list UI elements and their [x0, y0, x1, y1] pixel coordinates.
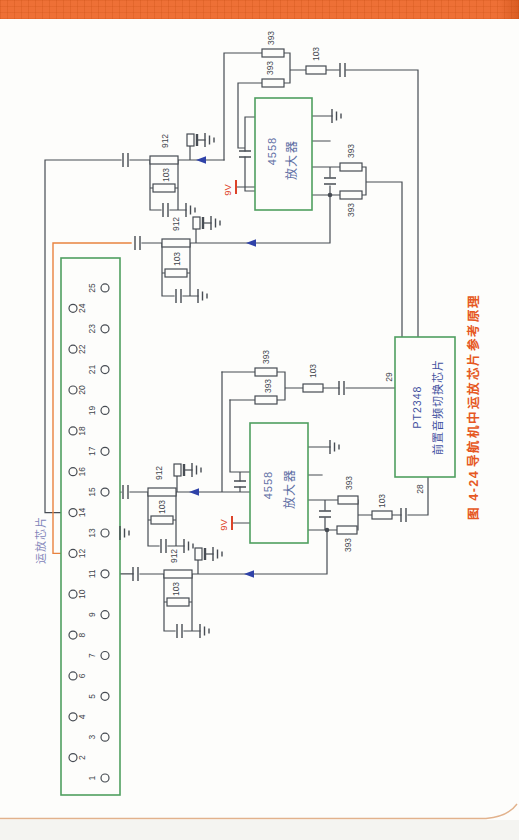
pt2348-box	[395, 337, 455, 477]
opamp-block-1: 393 393 103 4558 放大器 9V 393 393	[222, 31, 363, 217]
pin-circle	[69, 590, 77, 598]
resistor	[255, 396, 277, 404]
ground-icon	[330, 440, 339, 454]
pin-circle	[101, 325, 109, 333]
capacitor-icon	[340, 63, 345, 77]
pin-circle	[69, 509, 77, 517]
bypass-capacitor-icon	[174, 463, 201, 477]
capacitor-icon	[401, 508, 406, 522]
pin-circle	[101, 652, 109, 660]
ground-icon	[198, 289, 207, 303]
pin-number: 3	[87, 735, 97, 740]
pin-circle	[69, 754, 77, 762]
input-filter-1: 912 103	[123, 133, 214, 217]
pin-circle	[69, 549, 77, 557]
resistor	[262, 79, 284, 87]
capacitor-icon	[123, 485, 128, 499]
resistor	[153, 184, 175, 192]
resistor	[306, 66, 326, 74]
ground-icon	[186, 203, 195, 217]
circuit-diagram: 1 2 3 4 5 6 7 8 9 10 11 12 13 14 15 16 1…	[0, 0, 519, 840]
resistor-label: 103	[157, 500, 167, 514]
ground-icon	[184, 539, 193, 553]
resistor	[337, 526, 357, 534]
capacitor-icon	[161, 539, 166, 553]
pin-circle	[69, 427, 77, 435]
pin-number: 2	[77, 755, 87, 760]
resistor	[338, 496, 358, 504]
pin-number: 7	[87, 653, 97, 658]
resistor	[262, 49, 284, 57]
signal-arrow-icon	[189, 488, 199, 496]
pin-number: 12	[77, 548, 87, 558]
pin-circle	[69, 345, 77, 353]
resistor-label: 912	[171, 217, 181, 231]
input-filter-3: 912 103	[123, 463, 201, 553]
resistor-label: 912	[160, 134, 170, 148]
opamp-name-label: 放大器	[282, 469, 297, 510]
pin-number: 13	[87, 528, 97, 538]
capacitor-icon	[239, 151, 251, 157]
resistor	[164, 570, 192, 578]
capacitor-icon	[319, 511, 331, 517]
input-filter-2: 912 103	[135, 216, 256, 303]
pin-number: 25	[87, 283, 97, 293]
supply-label: 9V	[218, 519, 229, 531]
resistor	[340, 163, 362, 171]
resistor-label: 393	[263, 379, 273, 393]
resistor-label: 103	[311, 47, 321, 61]
opamp-chip-1	[255, 98, 312, 210]
pin-circle	[69, 468, 77, 476]
resistor-label: 393	[346, 203, 356, 217]
pin-number: 16	[77, 467, 87, 477]
page-edge-area	[0, 820, 519, 840]
resistor	[165, 269, 187, 277]
signal-arrow-icon	[246, 239, 256, 247]
resistor-label: 393	[346, 144, 356, 158]
pin-number: 8	[77, 632, 87, 637]
pin-number: 24	[77, 303, 87, 313]
input-filter-4: 912 103	[133, 547, 254, 638]
pin-number: 19	[87, 405, 97, 415]
connector-label: 运放芯片	[34, 516, 47, 564]
pin-number: 17	[87, 446, 97, 456]
pin-circle	[101, 284, 109, 292]
bypass-capacitor-icon	[187, 133, 214, 147]
resistor-label: 393	[265, 61, 275, 75]
resistor	[340, 191, 362, 199]
pin-circle	[101, 529, 109, 537]
pin-circle	[101, 488, 109, 496]
pin-circle	[101, 611, 109, 619]
signal-arrow-icon	[196, 156, 206, 164]
pin-circle	[69, 672, 77, 680]
capacitor-icon	[133, 567, 138, 581]
resistor-label: 393	[261, 350, 271, 364]
opamp-chip-2	[250, 423, 308, 543]
switch-part-label: PT2348	[411, 386, 423, 429]
pin-number: 21	[87, 365, 97, 375]
pin-number: 11	[87, 569, 97, 578]
capacitor-icon	[176, 289, 181, 303]
resistor	[255, 368, 277, 376]
capacitor-icon	[234, 481, 246, 487]
pin-circle	[69, 386, 77, 394]
dip-connector: 1 2 3 4 5 6 7 8 9 10 11 12 13 14 15 16 1…	[34, 258, 129, 795]
pin-number: 1	[87, 775, 97, 780]
resistor-label: 103	[172, 252, 182, 266]
pin-circle	[69, 304, 77, 312]
opamp-part-label: 4558	[262, 471, 274, 499]
resistor-label: 103	[377, 494, 387, 508]
pin-number: 18	[77, 426, 87, 436]
pin-number: 23	[87, 324, 97, 334]
pin-number: 22	[77, 344, 87, 354]
resistor	[148, 488, 176, 496]
resistor-label: 393	[344, 476, 354, 490]
resistor-label: 393	[266, 31, 276, 45]
pin-circle	[69, 631, 77, 639]
resistor-label: 103	[161, 168, 171, 182]
pin-circle	[101, 406, 109, 414]
capacitor-icon	[123, 153, 128, 167]
junction-dot	[325, 528, 330, 533]
pin-number: 6	[77, 673, 87, 678]
resistor	[151, 516, 173, 524]
